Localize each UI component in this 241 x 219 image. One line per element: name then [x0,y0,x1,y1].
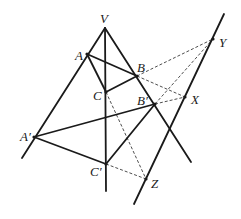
point-X [183,95,186,98]
ray-V-B-Bprime [105,28,191,162]
side-BprimeCprime [106,104,155,164]
label-A: A [74,48,83,63]
point-Aprime [32,135,35,138]
side-AC [87,54,106,92]
side-AprimeCprime [34,137,106,164]
label-Aprime: A′ [19,129,31,144]
label-B: B [137,60,145,75]
dashed-line-B-Y [137,39,213,76]
label-X: X [190,92,200,107]
label-V: V [100,11,110,26]
dashed-line-Bprime-Y [155,39,213,104]
dashed-line-Bprime-X [155,97,185,104]
point-Y [211,37,214,40]
label-Bprime: B′ [137,93,148,108]
point-C [104,90,107,93]
label-Cprime: C′ [90,164,102,179]
side-BC [106,76,137,92]
point-Cprime [104,162,107,165]
label-Z: Z [151,176,159,191]
label-C: C [93,88,102,103]
desargues-diagram: V A B C A′ B′ C′ X Y Z [0,0,241,219]
label-Y: Y [219,35,228,50]
axis-line-XYZ [134,14,224,204]
ray-V-C-Cprime [105,28,106,191]
point-Bprime [153,102,156,105]
point-A [85,52,88,55]
side-AprimeBprime [34,104,155,137]
point-Z [144,177,147,180]
